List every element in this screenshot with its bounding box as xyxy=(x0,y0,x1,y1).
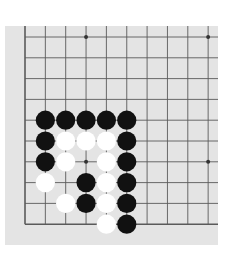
go-board-grid[interactable] xyxy=(5,26,218,245)
star-point xyxy=(206,35,210,39)
white-stone[interactable] xyxy=(56,194,75,213)
go-board[interactable] xyxy=(5,26,218,245)
black-stone[interactable] xyxy=(36,111,55,130)
white-stone[interactable] xyxy=(97,194,116,213)
black-stone[interactable] xyxy=(76,173,95,192)
black-stone[interactable] xyxy=(36,131,55,150)
white-stone[interactable] xyxy=(56,152,75,171)
black-stone[interactable] xyxy=(56,111,75,130)
black-stone[interactable] xyxy=(117,152,136,171)
black-stone[interactable] xyxy=(117,215,136,234)
white-stone[interactable] xyxy=(36,173,55,192)
white-stone[interactable] xyxy=(56,131,75,150)
black-stone[interactable] xyxy=(76,194,95,213)
black-stone[interactable] xyxy=(117,194,136,213)
white-stone[interactable] xyxy=(97,131,116,150)
white-stone[interactable] xyxy=(76,131,95,150)
star-point xyxy=(84,35,88,39)
black-stone[interactable] xyxy=(76,111,95,130)
star-point xyxy=(84,160,88,164)
star-point xyxy=(206,160,210,164)
white-stone[interactable] xyxy=(97,215,116,234)
black-stone[interactable] xyxy=(117,131,136,150)
white-stone[interactable] xyxy=(97,173,116,192)
black-stone[interactable] xyxy=(36,152,55,171)
black-stone[interactable] xyxy=(117,173,136,192)
black-stone[interactable] xyxy=(117,111,136,130)
white-stone[interactable] xyxy=(97,152,116,171)
black-stone[interactable] xyxy=(97,111,116,130)
